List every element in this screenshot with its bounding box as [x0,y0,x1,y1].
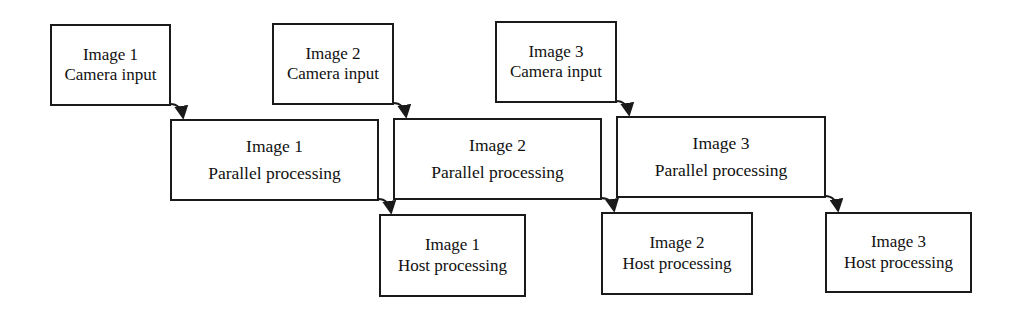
camera-input-box-1: Image 1 Camera input [50,24,171,106]
box-label: Host processing [844,253,953,273]
parallel-processing-box-3: Image 3 Parallel processing [616,116,826,198]
arrow-par2-to-host2 [601,198,614,210]
box-label: Camera input [64,65,156,85]
host-processing-box-3: Image 3 Host processing [825,212,972,293]
box-label: Host processing [398,256,507,276]
box-title: Image 2 [305,44,360,64]
pipeline-diagram: Image 1 Camera input Image 2 Camera inpu… [0,0,1018,316]
host-processing-box-1: Image 1 Host processing [379,214,526,297]
arrow-cam2-to-par2 [393,103,406,116]
box-title: Image 3 [693,133,750,154]
host-processing-box-2: Image 2 Host processing [601,212,753,295]
box-title: Image 2 [649,233,704,253]
camera-input-box-3: Image 3 Camera input [495,21,617,103]
box-label: Host processing [622,254,731,274]
box-label: Parallel processing [208,163,341,184]
box-label: Parallel processing [655,160,788,181]
box-label: Parallel processing [431,162,564,183]
box-label: Camera input [287,64,379,84]
box-title: Image 3 [871,232,926,252]
arrow-par3-to-host3 [825,196,838,210]
parallel-processing-box-1: Image 1 Parallel processing [170,119,379,201]
camera-input-box-2: Image 2 Camera input [272,23,394,105]
box-title: Image 1 [246,136,303,157]
arrow-par1-to-host1 [378,199,391,212]
box-label: Camera input [510,62,602,82]
arrow-cam3-to-par3 [616,101,629,114]
box-title: Image 1 [83,45,138,65]
box-title: Image 1 [425,235,480,255]
box-title: Image 3 [528,42,583,62]
box-title: Image 2 [469,135,526,156]
parallel-processing-box-2: Image 2 Parallel processing [393,118,602,200]
arrow-cam1-to-par1 [170,104,183,117]
